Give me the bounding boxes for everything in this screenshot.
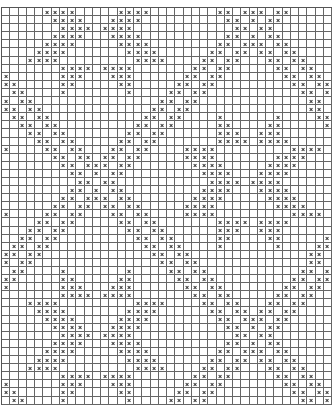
stitch-cell-empty: [291, 97, 299, 105]
stitch-cell-filled: [85, 332, 93, 340]
stitch-cell-empty: [266, 210, 274, 218]
stitch-cell-empty: [19, 324, 27, 332]
stitch-cell-filled: [241, 307, 249, 315]
stitch-cell-empty: [291, 121, 299, 129]
stitch-cell-empty: [266, 97, 274, 105]
stitch-cell-empty: [134, 251, 142, 259]
stitch-cell-empty: [43, 397, 51, 405]
stitch-cell-empty: [175, 283, 183, 291]
stitch-cell-empty: [184, 364, 192, 372]
stitch-cell-empty: [266, 291, 274, 299]
stitch-cell-filled: [142, 218, 150, 226]
stitch-cell-empty: [291, 243, 299, 251]
stitch-cell-empty: [76, 243, 84, 251]
stitch-cell-empty: [200, 121, 208, 129]
stitch-cell-empty: [2, 324, 10, 332]
stitch-cell-filled: [324, 243, 332, 251]
stitch-cell-filled: [299, 57, 307, 65]
stitch-cell-empty: [142, 332, 150, 340]
stitch-cell-empty: [299, 251, 307, 259]
stitch-cell-empty: [225, 73, 233, 81]
stitch-cell-filled: [307, 397, 315, 405]
stitch-cell-empty: [151, 324, 159, 332]
stitch-cell-empty: [299, 121, 307, 129]
stitch-cell-empty: [10, 162, 18, 170]
stitch-cell-empty: [93, 105, 101, 113]
stitch-cell-filled: [159, 129, 167, 137]
stitch-cell-empty: [142, 324, 150, 332]
stitch-cell-empty: [299, 178, 307, 186]
stitch-cell-empty: [225, 202, 233, 210]
stitch-cell-filled: [68, 146, 76, 154]
stitch-cell-empty: [291, 340, 299, 348]
stitch-cell-empty: [19, 291, 27, 299]
stitch-cell-filled: [60, 307, 68, 315]
stitch-cell-empty: [10, 307, 18, 315]
stitch-cell-empty: [10, 129, 18, 137]
stitch-cell-empty: [159, 186, 167, 194]
stitch-cell-empty: [258, 324, 266, 332]
stitch-cell-empty: [2, 8, 10, 16]
stitch-cell-empty: [266, 275, 274, 283]
stitch-cell-empty: [324, 348, 332, 356]
stitch-cell-empty: [159, 283, 167, 291]
stitch-cell-empty: [208, 129, 216, 137]
stitch-cell-empty: [250, 162, 258, 170]
stitch-cell-empty: [258, 259, 266, 267]
stitch-cell-filled: [307, 89, 315, 97]
stitch-cell-empty: [217, 24, 225, 32]
stitch-cell-filled: [118, 388, 126, 396]
stitch-cell-empty: [118, 227, 126, 235]
stitch-cell-empty: [43, 81, 51, 89]
stitch-cell-empty: [217, 210, 225, 218]
stitch-cell-filled: [43, 364, 51, 372]
stitch-cell-empty: [324, 73, 332, 81]
stitch-cell-filled: [2, 251, 10, 259]
stitch-cell-empty: [250, 146, 258, 154]
stitch-cell-empty: [283, 324, 291, 332]
stitch-cell-filled: [200, 146, 208, 154]
stitch-cell-filled: [217, 65, 225, 73]
stitch-cell-empty: [35, 316, 43, 324]
stitch-cell-filled: [109, 73, 117, 81]
stitch-cell-empty: [85, 105, 93, 113]
stitch-cell-empty: [93, 307, 101, 315]
stitch-cell-filled: [233, 364, 241, 372]
stitch-cell-empty: [76, 275, 84, 283]
stitch-cell-filled: [52, 129, 60, 137]
stitch-cell-empty: [233, 267, 241, 275]
stitch-cell-empty: [118, 89, 126, 97]
stitch-cell-empty: [151, 380, 159, 388]
stitch-cell-empty: [134, 291, 142, 299]
stitch-cell-filled: [19, 89, 27, 97]
stitch-cell-empty: [283, 16, 291, 24]
stitch-cell-empty: [266, 65, 274, 73]
stitch-cell-empty: [225, 113, 233, 121]
stitch-cell-filled: [19, 235, 27, 243]
stitch-cell-empty: [93, 48, 101, 56]
stitch-cell-filled: [109, 146, 117, 154]
stitch-cell-empty: [27, 307, 35, 315]
stitch-cell-empty: [19, 299, 27, 307]
stitch-cell-empty: [43, 73, 51, 81]
stitch-cell-empty: [250, 235, 258, 243]
stitch-cell-empty: [241, 89, 249, 97]
stitch-cell-empty: [241, 380, 249, 388]
stitch-cell-empty: [109, 275, 117, 283]
stitch-cell-empty: [134, 332, 142, 340]
stitch-cell-filled: [118, 8, 126, 16]
stitch-cell-empty: [192, 251, 200, 259]
stitch-cell-filled: [52, 307, 60, 315]
stitch-cell-filled: [85, 291, 93, 299]
stitch-cell-empty: [35, 267, 43, 275]
stitch-cell-empty: [10, 299, 18, 307]
stitch-cell-filled: [316, 73, 324, 81]
stitch-cell-empty: [250, 202, 258, 210]
stitch-cell-empty: [43, 186, 51, 194]
stitch-cell-empty: [126, 243, 134, 251]
stitch-cell-empty: [200, 8, 208, 16]
stitch-cell-empty: [175, 186, 183, 194]
stitch-cell-empty: [184, 40, 192, 48]
stitch-cell-empty: [109, 121, 117, 129]
stitch-cell-empty: [241, 105, 249, 113]
